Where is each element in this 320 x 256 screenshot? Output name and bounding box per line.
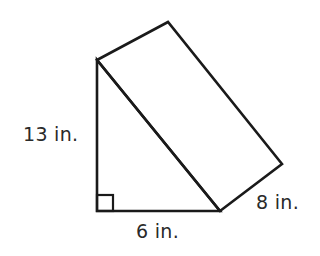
right-angle-marker bbox=[97, 195, 113, 211]
base-label: 6 in. bbox=[136, 222, 179, 241]
slanted-rectangular-face bbox=[97, 22, 282, 211]
height-label: 13 in. bbox=[23, 125, 78, 144]
depth-label: 8 in. bbox=[256, 193, 299, 212]
